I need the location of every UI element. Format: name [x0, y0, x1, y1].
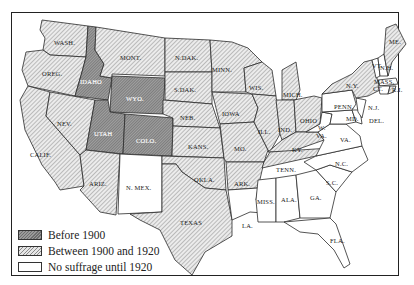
label-neb: NEB.	[180, 114, 196, 121]
legend-label: Before 1900	[48, 229, 105, 241]
legend: Before 1900 Between 1900 and 1920 No suf…	[18, 227, 159, 275]
label-kans: KANS.	[188, 143, 208, 150]
label-ny: N.Y.	[346, 82, 359, 89]
label-del: DEL.	[369, 117, 384, 124]
label-idaho: IDAHO	[80, 78, 102, 85]
state-mont	[95, 27, 165, 78]
label-wash: WASH.	[54, 39, 75, 46]
label-ind: IND.	[278, 126, 292, 133]
label-nev: NEV.	[57, 120, 72, 127]
label-mich: MICH.	[283, 91, 303, 98]
label-utah: UTAH	[94, 130, 112, 137]
label-nj: N.J.	[368, 104, 379, 111]
label-ndak: N.DAK.	[175, 54, 198, 61]
label-oreg: OREG.	[42, 70, 62, 77]
label-sc: S.C.	[326, 179, 338, 186]
label-ariz: ARIZ.	[89, 180, 107, 187]
label-okla: OKLA.	[194, 176, 215, 183]
label-calif: CALIF.	[30, 151, 51, 158]
legend-swatch-white	[18, 262, 42, 272]
legend-item-between-1900-1920: Between 1900 and 1920	[18, 243, 159, 259]
state-iowa	[212, 92, 258, 124]
label-penn: PENN.	[334, 103, 354, 110]
label-ri: R.I.	[392, 86, 403, 93]
label-md: MD.	[346, 115, 359, 122]
label-minn: MINN.	[212, 66, 232, 73]
legend-swatch-dark-hatch	[18, 230, 42, 240]
label-va: VA.	[340, 136, 351, 143]
legend-swatch-light-hatch	[18, 246, 42, 256]
label-wis: WIS.	[249, 84, 264, 91]
label-tenn: TENN.	[276, 166, 296, 173]
legend-label: Between 1900 and 1920	[48, 245, 159, 257]
label-ga: GA.	[310, 194, 322, 201]
state-kans	[172, 126, 224, 158]
label-ala: ALA.	[281, 196, 297, 203]
label-sdak: S.DAK.	[174, 86, 196, 93]
label-iowa: IOWA	[222, 110, 240, 117]
label-texas: TEXAS	[180, 219, 202, 226]
label-la: LA.	[242, 222, 253, 229]
label-colo: COLO.	[136, 137, 156, 144]
label-mo: MO.	[234, 145, 247, 152]
label-ohio: OHIO	[300, 117, 317, 124]
label-me: ME.	[389, 38, 401, 45]
label-nh: N.H.	[380, 64, 394, 71]
label-ky: KY.	[292, 146, 303, 153]
legend-item-before-1900: Before 1900	[18, 227, 159, 243]
label-miss: MISS.	[257, 198, 275, 205]
label-nc: N.C.	[335, 160, 348, 167]
label-nmex: N. MEX.	[126, 184, 152, 191]
legend-label: No suffrage until 1920	[48, 261, 152, 273]
label-mont: MONT.	[120, 54, 141, 61]
label-mass: MASS.	[374, 78, 395, 85]
label-wva-1: W.	[318, 124, 326, 131]
label-fla: FLA.	[330, 237, 345, 244]
label-ct: CT.	[373, 85, 383, 92]
label-ill: ILL.	[258, 128, 271, 135]
label-wva-2: VA.	[316, 132, 327, 139]
label-wyo: WYO.	[126, 95, 144, 102]
legend-item-no-suffrage: No suffrage until 1920	[18, 259, 159, 275]
state-colo	[123, 114, 173, 156]
label-ark: ARK.	[234, 180, 250, 187]
